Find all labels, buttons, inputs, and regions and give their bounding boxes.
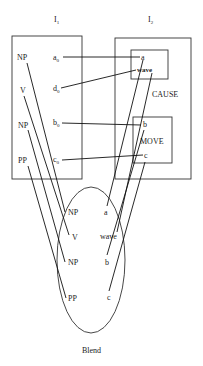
mapping-d0-wave: [61, 70, 136, 88]
blend-diagram: I1 I2 NP V NP PP a0 d0 b0 c0 a wave CAUS…: [0, 0, 203, 366]
projection-b-to-blend: [107, 130, 144, 255]
input2-item-wave: wave: [137, 66, 152, 74]
input2-item-b: b: [143, 120, 147, 129]
projection-np-to-blend: [27, 63, 65, 212]
projection-pp-to-blend: [28, 166, 66, 298]
projection-a-to-blend: [107, 60, 143, 206]
blend-role-np2: NP: [68, 258, 79, 267]
input1-role-np: NP: [17, 53, 28, 62]
cause-frame-label: CAUSE: [152, 90, 178, 99]
input2-space: [115, 38, 191, 179]
input1-element-d0: d0: [53, 84, 60, 94]
input1-title: I1: [54, 15, 60, 25]
blend-role-v: V: [72, 233, 78, 242]
mapping-b0-b: [62, 123, 141, 125]
input2-item-c: c: [144, 151, 148, 160]
input1-element-a0: a0: [53, 53, 60, 63]
input2-title: I2: [148, 15, 154, 25]
blend-item-wave: wave: [100, 232, 117, 241]
input1-element-b0: b0: [53, 118, 60, 128]
input1-role-np2: NP: [18, 121, 29, 130]
blend-item-b: b: [105, 258, 109, 267]
blend-role-np: NP: [68, 208, 79, 217]
move-frame-label: MOVE: [140, 137, 164, 146]
blend-role-pp: PP: [68, 294, 77, 303]
blend-item-a: a: [104, 208, 108, 217]
blend-item-c: c: [107, 293, 111, 302]
input1-element-c0: c0: [53, 155, 60, 165]
input1-role-v: V: [20, 86, 26, 95]
input1-role-pp: PP: [18, 156, 27, 165]
blend-label: Blend: [82, 346, 101, 355]
projection-v-to-blend: [24, 96, 69, 235]
mapping-c0-c: [62, 155, 143, 160]
projection-c-to-blend: [109, 162, 145, 291]
projection-np2-to-blend: [28, 130, 65, 262]
cause-subframe-box: [131, 50, 168, 79]
